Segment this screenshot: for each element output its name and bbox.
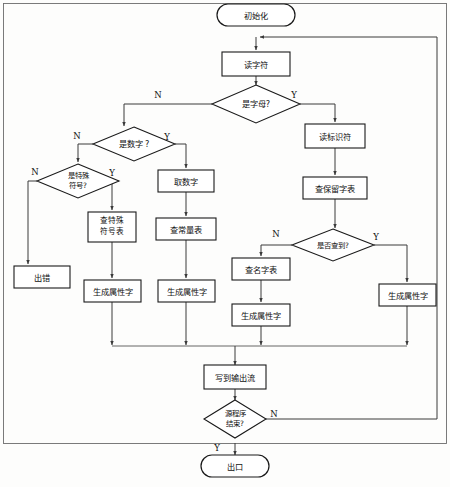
node-get-digit[interactable]: 取数字 [158,170,214,192]
node-is-digit-label: 是数字 ? [119,139,150,149]
node-generate-attribute-word-3-label: 生成属性字 [241,311,281,321]
node-check-name-table-label: 查名字表 [245,265,277,275]
node-is-special-symbol-label-line1: 是特殊 [68,171,90,180]
node-read-identifier[interactable]: 读标识符 [305,124,365,148]
node-generate-attribute-word-2[interactable]: 生成属性字 [158,280,215,302]
branch-label-is-eof-no: N [270,409,278,419]
node-exit[interactable]: 出口 [201,455,269,477]
branch-label-is-digit-yes: Y [163,132,170,142]
node-error[interactable]: 出错 [14,266,70,288]
node-is-special-symbol[interactable]: 是特殊 符号? [37,164,119,198]
node-check-constant-table[interactable]: 查常量表 [156,218,216,240]
node-generate-attribute-word-1-label: 生成属性字 [93,287,133,297]
edge-is-special-no [28,181,37,264]
edge-is-special-yes [112,181,119,210]
node-exit-label: 出口 [227,462,243,472]
edge-is-digit-no [78,144,93,162]
node-start-label: 初始化 [244,11,268,21]
node-check-special-symbol-table[interactable]: 查特殊 符号表 [88,212,136,242]
node-error-label: 出错 [34,273,50,283]
branch-label-is-special-yes: Y [108,168,115,178]
node-generate-attribute-word-4[interactable]: 生成属性字 [379,284,436,306]
node-write-output-stream-label: 写到输出流 [215,373,255,383]
node-read-char-label: 读字符 [244,60,268,70]
edge-is-letter-yes [300,104,335,122]
branch-label-is-digit-no: N [73,131,81,141]
node-start[interactable]: 初始化 [217,4,295,26]
node-read-char[interactable]: 读字符 [222,52,290,76]
branch-label-is-letter-no: N [154,90,162,100]
node-is-source-end[interactable]: 源程序 结束? [204,400,266,438]
flowchart-canvas: 初始化 读字符 是字母? 是数字 ? 读标识符 是特殊 符号? [0,0,450,487]
node-is-source-end-label-line2: 结束? [226,419,244,428]
node-check-reserved-words-label: 查保留字表 [315,184,355,194]
branch-label-is-found-no: N [272,229,280,239]
edge-is-digit-yes [175,144,186,168]
node-generate-attribute-word-1[interactable]: 生成属性字 [84,280,141,302]
edge-is-letter-no [124,104,212,126]
node-is-found[interactable]: 是否查到? [292,229,374,261]
branch-label-is-letter-yes: Y [290,90,297,100]
node-is-letter[interactable]: 是字母? [212,85,300,123]
node-check-special-symbol-table-label-line2: 符号表 [100,226,124,236]
node-is-source-end-label-line1: 源程序 [225,409,247,418]
branch-label-is-found-yes: Y [372,232,379,242]
node-generate-attribute-word-4-label: 生成属性字 [388,291,428,301]
node-check-name-table[interactable]: 查名字表 [232,258,290,280]
node-write-output-stream[interactable]: 写到输出流 [204,365,266,389]
edge-is-found-yes [374,245,407,282]
node-is-found-label: 是否查到? [317,241,349,250]
branch-label-is-special-no: N [31,167,39,177]
node-check-special-symbol-table-label-line1: 查特殊 [100,215,124,225]
edge-is-found-no [261,245,292,256]
branch-label-is-eof-yes: Y [213,443,220,453]
node-get-digit-label: 取数字 [174,177,198,187]
node-generate-attribute-word-2-label: 生成属性字 [167,287,207,297]
flowchart-svg: 初始化 读字符 是字母? 是数字 ? 读标识符 是特殊 符号? [0,0,450,487]
node-generate-attribute-word-3[interactable]: 生成属性字 [232,304,290,326]
node-check-constant-table-label: 查常量表 [170,225,202,235]
node-is-digit[interactable]: 是数字 ? [93,127,175,161]
node-read-identifier-label: 读标识符 [319,132,351,142]
node-is-special-symbol-label-line2: 符号? [69,181,87,190]
node-is-letter-label: 是字母? [242,99,270,109]
node-check-reserved-words[interactable]: 查保留字表 [303,177,367,199]
